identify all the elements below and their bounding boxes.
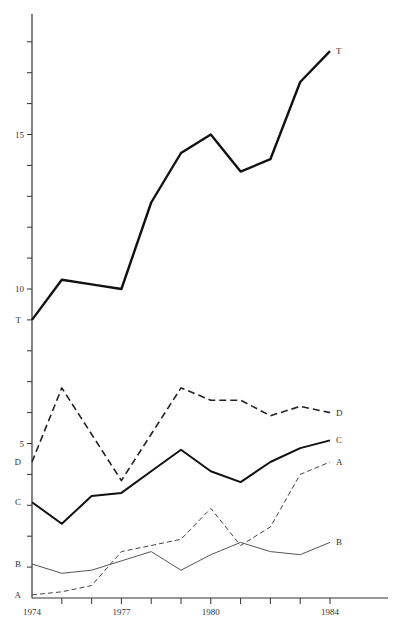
- line-chart: 510151974197719801984 TTDDCCAABB: [0, 0, 398, 628]
- series-end-label-d: D: [336, 408, 343, 418]
- series-start-label-b: B: [15, 559, 21, 569]
- series-line-c: [32, 440, 330, 523]
- series-lines: [32, 51, 330, 595]
- series-end-label-c: C: [336, 435, 342, 445]
- series-start-label-c: C: [15, 497, 21, 507]
- axes: 510151974197719801984: [15, 14, 388, 617]
- series-labels: TTDDCCAABB: [15, 46, 344, 600]
- series-end-label-b: B: [336, 537, 342, 547]
- series-line-t: [32, 51, 330, 320]
- series-line-b: [32, 542, 330, 573]
- x-tick-label: 1974: [23, 607, 42, 617]
- series-start-label-t: T: [16, 315, 22, 325]
- x-tick-label: 1984: [321, 607, 340, 617]
- y-tick-label: 15: [15, 130, 25, 140]
- series-line-a: [32, 462, 330, 595]
- series-line-d: [32, 388, 330, 481]
- series-start-label-d: D: [15, 457, 22, 467]
- y-tick-label: 5: [20, 439, 25, 449]
- x-tick-label: 1977: [112, 607, 131, 617]
- series-end-label-t: T: [336, 46, 342, 56]
- x-tick-label: 1980: [202, 607, 221, 617]
- series-start-label-a: A: [15, 590, 22, 600]
- series-end-label-a: A: [336, 457, 343, 467]
- y-tick-label: 10: [15, 284, 25, 294]
